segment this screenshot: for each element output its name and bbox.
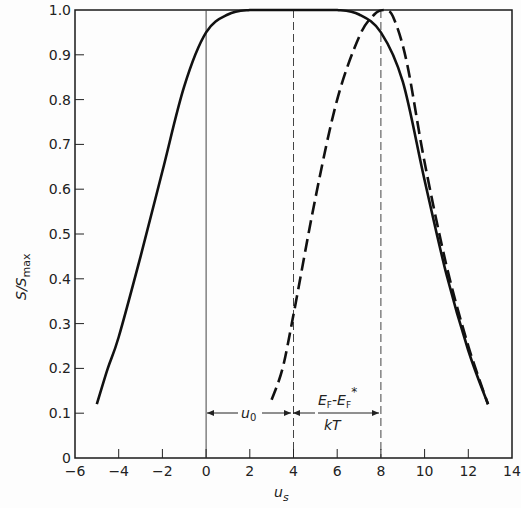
- y-tick-label: 0.1: [49, 405, 71, 421]
- x-tick-label: 6: [333, 463, 342, 479]
- y-tick-label: 0.6: [49, 181, 71, 197]
- x-tick-label: −2: [152, 463, 173, 479]
- energy-label-denominator: kT: [324, 417, 342, 433]
- y-tick-label: 0.9: [49, 47, 71, 63]
- x-axis-ticks: −6−4−202468101214: [65, 449, 521, 479]
- y-tick-label: 0.7: [49, 136, 71, 152]
- y-axis-title: S/Smax: [13, 253, 33, 300]
- x-tick-label: 2: [245, 463, 254, 479]
- x-axis-title-text: us: [274, 484, 289, 504]
- y-tick-label: 0.5: [49, 226, 71, 242]
- y-axis-ticks: 00.10.20.30.40.50.60.70.80.91.0: [49, 2, 84, 466]
- u0-dimension-arrow: u0: [207, 405, 291, 423]
- x-tick-label: −4: [108, 463, 129, 479]
- y-tick-label: 1.0: [49, 2, 71, 18]
- y-tick-label: 0.3: [49, 316, 71, 332]
- y-tick-label: 0: [62, 450, 71, 466]
- x-tick-label: 8: [376, 463, 385, 479]
- x-tick-label: 14: [503, 463, 521, 479]
- y-tick-label: 0.4: [49, 271, 71, 287]
- series-solid-curve: [97, 10, 488, 404]
- energy-label-numerator: EF-EF*: [318, 385, 357, 410]
- series-layer: [97, 10, 488, 404]
- y-axis-title-text: S/Smax: [13, 253, 33, 300]
- u0-label: u0: [241, 405, 256, 423]
- x-tick-label: 12: [459, 463, 477, 479]
- x-axis-title: us: [274, 484, 289, 504]
- y-tick-label: 0.2: [49, 360, 71, 376]
- series-dashed-curve: [272, 10, 488, 404]
- x-tick-label: 0: [202, 463, 211, 479]
- line-chart: −6−4−202468101214 00.10.20.30.40.50.60.7…: [0, 0, 521, 508]
- x-tick-label: 4: [289, 463, 298, 479]
- y-tick-label: 0.8: [49, 92, 71, 108]
- energy-dimension-arrow: EF-EF* kT: [293, 385, 379, 433]
- x-tick-label: 10: [416, 463, 434, 479]
